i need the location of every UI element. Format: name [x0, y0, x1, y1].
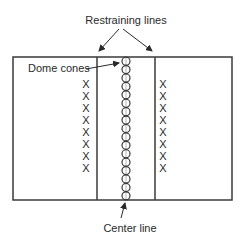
restraining-arrow-left — [99, 29, 119, 51]
player-marker: X — [82, 162, 90, 174]
player-marker: X — [82, 90, 90, 102]
player-marker: X — [159, 90, 167, 102]
player-marker: X — [82, 126, 90, 138]
player-marker: X — [159, 138, 167, 150]
player-marker: X — [82, 138, 90, 150]
player-marker: X — [82, 114, 90, 126]
center-line-arrow — [121, 203, 125, 218]
player-marker: X — [82, 78, 90, 90]
player-marker: X — [82, 102, 90, 114]
player-marker: X — [159, 114, 167, 126]
player-marker: X — [159, 78, 167, 90]
restraining-lines-label: Restraining lines — [85, 14, 167, 26]
restraining-arrow-right — [123, 29, 152, 51]
dome-cones-label: Dome cones — [28, 62, 90, 74]
player-marker: X — [82, 150, 90, 162]
player-marker: X — [159, 150, 167, 162]
players-right-group: XXXXXXXX — [159, 78, 167, 174]
field-diagram: XXXXXXXX XXXXXXXX Restraining lines Dome… — [0, 0, 243, 244]
dome-cones-arrow — [86, 63, 119, 69]
players-left-group: XXXXXXXX — [82, 78, 90, 174]
center-line-label: Center line — [103, 222, 156, 234]
player-marker: X — [159, 126, 167, 138]
player-marker: X — [159, 102, 167, 114]
player-marker: X — [159, 162, 167, 174]
